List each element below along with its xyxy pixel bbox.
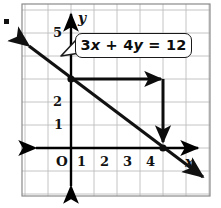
x-tick-label-4: 4	[146, 155, 155, 168]
x-tick-label-2: 2	[100, 155, 109, 168]
x-tick-label-1: 1	[77, 155, 86, 168]
y-tick-label-1: 1	[54, 118, 63, 131]
coordinate-plane	[0, 0, 221, 208]
y-axis-name: y	[78, 11, 86, 25]
equation-callout: 3x + 4y = 12	[75, 33, 192, 58]
origin-label: O	[56, 155, 68, 169]
equation-label: 3x + 4y = 12	[80, 38, 186, 53]
x-tick-label-3: 3	[123, 155, 132, 168]
x-axis-name: x	[185, 155, 193, 169]
graph-figure: 3x + 4y = 12 5 2 1 O 1 2 3 4 y x	[0, 0, 221, 208]
y-intercept-point	[67, 75, 74, 82]
y-tick-label-5: 5	[53, 26, 62, 39]
y-tick-label-2: 2	[53, 95, 62, 108]
x-intercept-point	[159, 144, 166, 151]
